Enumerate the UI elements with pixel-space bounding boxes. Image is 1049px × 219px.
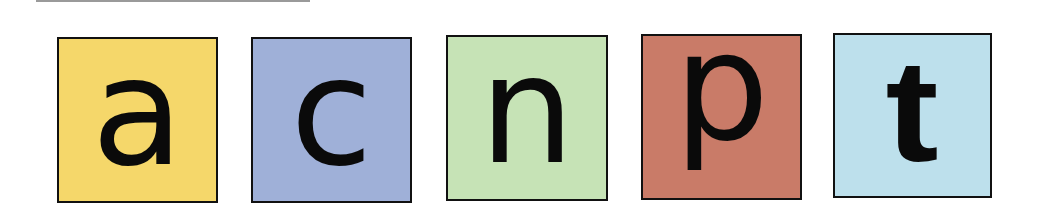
letter-a: a bbox=[92, 37, 184, 187]
letter-tile-n: n bbox=[446, 35, 608, 201]
letter-p: p bbox=[674, 12, 769, 162]
letter-tile-a: a bbox=[57, 37, 218, 203]
letter-tile-t: t bbox=[833, 33, 992, 198]
letter-c: c bbox=[290, 37, 372, 187]
letter-n: n bbox=[479, 35, 574, 185]
letter-tile-p: p bbox=[641, 34, 802, 200]
letter-tile-c: c bbox=[251, 37, 412, 203]
letter-t: t bbox=[886, 39, 939, 184]
top-rule bbox=[36, 0, 310, 2]
